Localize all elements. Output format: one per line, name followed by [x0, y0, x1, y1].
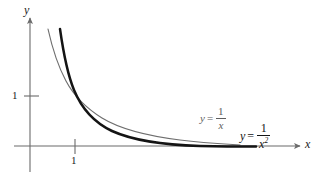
curve-label-one-over-x-denominator: x [216, 120, 225, 131]
curve-one-over-x-squared [60, 29, 256, 147]
curve-label-one-over-x-squared-denominator: x2 [257, 137, 270, 150]
curve-label-one-over-x-squared-equals: = [247, 130, 254, 142]
curve-label-one-over-x-squared-fraction: 1 x2 [257, 122, 270, 150]
function-graph-figure: y x 1 1 y = 1 x y = 1 x2 [0, 0, 321, 176]
plot-canvas [0, 0, 321, 176]
curve-label-one-over-x-numerator: 1 [216, 106, 226, 117]
denominator-base: x [218, 119, 223, 131]
curve-label-one-over-x-equals: = [207, 113, 213, 124]
y-axis-tick-label-1: 1 [12, 90, 18, 101]
curve-label-one-over-x-fraction: 1 x [216, 106, 226, 131]
x-axis-label: x [305, 138, 310, 150]
x-axis-tick-label-1: 1 [71, 155, 77, 166]
curve-label-one-over-x: y = 1 x [200, 106, 226, 131]
curve-label-one-over-x-squared-numerator: 1 [259, 122, 269, 134]
curve-label-one-over-x-lhs: y [200, 113, 205, 124]
curve-label-one-over-x-squared-lhs: y [240, 130, 245, 142]
curve-label-one-over-x-squared: y = 1 x2 [240, 122, 270, 150]
y-axis-label: y [24, 4, 29, 16]
denominator-exponent: 2 [264, 136, 268, 145]
